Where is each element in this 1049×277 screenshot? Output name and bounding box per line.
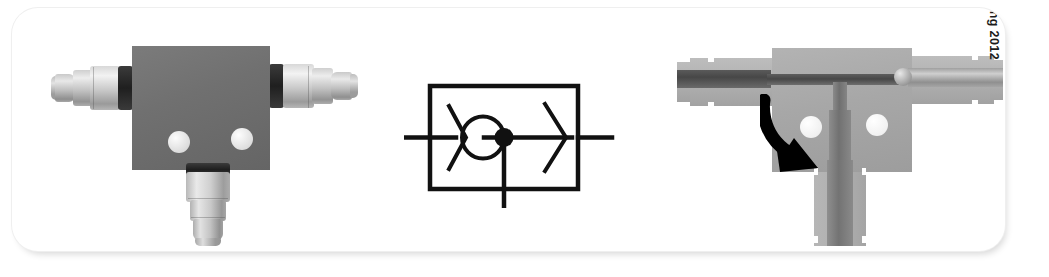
panel-shuttle-valve-cutaway bbox=[672, 22, 1002, 251]
right-fitting-tip bbox=[350, 74, 358, 98]
mounting-hole-right bbox=[866, 114, 888, 136]
symbol-junction-dot bbox=[495, 128, 514, 147]
right-port-collar bbox=[269, 64, 284, 108]
rib bbox=[191, 217, 225, 218]
shell-notch bbox=[708, 58, 714, 62]
rib bbox=[93, 67, 94, 109]
rib bbox=[308, 66, 309, 108]
left-port-bore bbox=[677, 70, 771, 88]
shuttle-ball bbox=[894, 68, 912, 86]
rib bbox=[188, 198, 228, 199]
shuttle-valve-symbol-svg bbox=[404, 66, 640, 208]
rotation-arrow-icon bbox=[760, 94, 850, 176]
figure-card: © Cengage Learning 2012 bbox=[12, 8, 1005, 251]
mounting-hole-left bbox=[168, 131, 190, 153]
right-fitting-collar-mid bbox=[312, 68, 333, 104]
copyright-notice: © Cengage Learning 2012 bbox=[987, 8, 1001, 60]
mounting-hole-right bbox=[231, 128, 253, 150]
shell-notch bbox=[814, 236, 818, 243]
shell-notch bbox=[862, 236, 866, 243]
shell-notch bbox=[862, 168, 866, 175]
right-fitting-collar-outer bbox=[331, 72, 352, 100]
left-port-collar bbox=[118, 66, 133, 110]
bottom-fitting-tip bbox=[195, 238, 221, 246]
panel-shuttle-valve-symbol bbox=[404, 66, 640, 208]
bottom-fitting-collar-outer bbox=[193, 219, 223, 240]
right-fitting-body bbox=[283, 64, 314, 108]
shell-notch bbox=[708, 102, 714, 106]
left-fitting-collar-outer bbox=[55, 74, 75, 102]
right-port-bore bbox=[908, 68, 1003, 87]
panel-shuttle-valve-photograph bbox=[40, 22, 370, 251]
shell-notch bbox=[972, 56, 978, 60]
valve-body-block bbox=[132, 46, 270, 170]
shell-notch bbox=[972, 100, 978, 104]
left-fitting-body bbox=[90, 66, 120, 110]
figure-inner: © Cengage Learning 2012 bbox=[12, 8, 1005, 251]
